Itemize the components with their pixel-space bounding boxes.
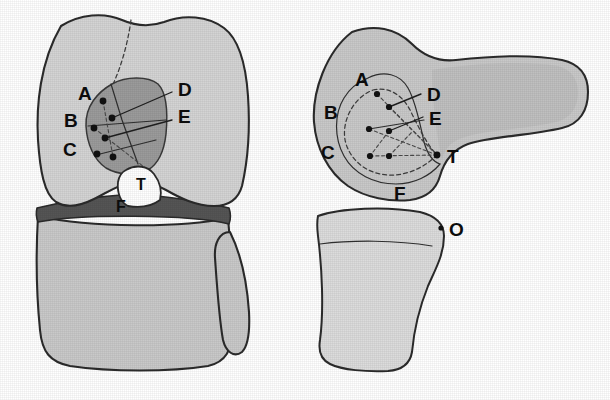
marker-dot-O (438, 225, 443, 230)
label-C-anterior: C (63, 139, 77, 160)
label-E-lateral: E (429, 108, 442, 129)
label-F-lateral: F (394, 183, 406, 204)
label-T-lateral: T (447, 146, 459, 167)
marker-dot (100, 98, 107, 105)
label-B-lateral: B (324, 102, 338, 123)
label-C-lateral: C (321, 142, 335, 163)
label-F-anterior: F (116, 198, 126, 215)
label-B-anterior: B (64, 110, 78, 131)
lateral-view-group: A B C D E T F O (314, 28, 588, 371)
marker-dot (386, 104, 392, 110)
lateral-tibia-shape (317, 209, 444, 372)
marker-dot (110, 154, 117, 161)
marker-dot (366, 126, 372, 132)
anterior-tibia-shape (37, 216, 233, 371)
label-O-lateral: O (449, 219, 464, 240)
label-E-anterior: E (178, 106, 191, 127)
marker-dot (374, 91, 380, 97)
label-A-anterior: A (78, 83, 92, 104)
marker-dot (102, 135, 109, 142)
marker-dot (94, 151, 101, 158)
label-D-anterior: D (178, 79, 192, 100)
marker-dot (386, 153, 392, 159)
knee-anatomy-figure: A B C D E T F (0, 0, 610, 400)
marker-dot-T (434, 152, 441, 159)
marker-dot (386, 128, 392, 134)
knee-diagram-svg: A B C D E T F (0, 0, 610, 400)
label-D-lateral: D (427, 84, 441, 105)
marker-dot (109, 115, 116, 122)
marker-dot (367, 153, 373, 159)
label-T-anterior: T (136, 176, 146, 193)
label-A-lateral: A (355, 69, 369, 90)
marker-dot (91, 125, 98, 132)
anterior-view-group: A B C D E T F (36, 15, 249, 370)
